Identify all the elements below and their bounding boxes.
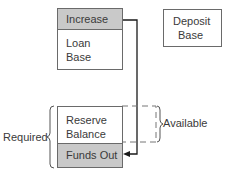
deposit-base-box: Deposit Base bbox=[163, 9, 222, 47]
increase-label: Increase bbox=[66, 13, 108, 26]
loan-base-label-line2: Base bbox=[66, 51, 91, 64]
arrowhead-icon bbox=[123, 151, 130, 157]
required-brace-icon bbox=[47, 106, 54, 168]
flow-arrow-line bbox=[122, 20, 137, 154]
deposit-base-label-line2: Base bbox=[178, 29, 203, 42]
required-label: Required bbox=[3, 131, 48, 143]
increase-box: Increase bbox=[57, 8, 123, 30]
deposit-base-label-line1: Deposit bbox=[173, 15, 210, 28]
reserve-balance-label-line2: Balance bbox=[66, 128, 106, 141]
available-label: Available bbox=[163, 117, 207, 129]
funds-out-box: Funds Out bbox=[57, 143, 123, 168]
loan-base-box: Loan Base bbox=[57, 29, 123, 70]
reserve-balance-box: Reserve Balance bbox=[57, 106, 123, 144]
available-dashed-outline bbox=[122, 106, 156, 142]
reserve-balance-label-line1: Reserve bbox=[66, 114, 107, 127]
funds-out-label: Funds Out bbox=[66, 149, 117, 162]
loan-base-label-line1: Loan bbox=[66, 37, 90, 50]
